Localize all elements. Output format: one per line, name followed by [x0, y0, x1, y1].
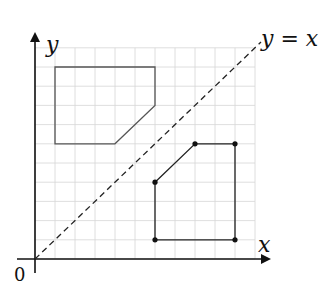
vertex-dot — [232, 237, 237, 242]
coordinate-diagram: y x 0 y = x — [0, 0, 323, 288]
vertex-dot — [232, 141, 237, 146]
x-axis-label: x — [258, 232, 271, 257]
mirror-line-y-equals-x — [35, 42, 261, 259]
y-axis-arrow-icon — [30, 32, 40, 42]
vertex-dot — [152, 237, 157, 242]
shapes — [55, 67, 238, 242]
vertex-dot — [192, 141, 197, 146]
origin-label: 0 — [14, 264, 25, 285]
y-axis-label: y — [45, 32, 59, 57]
mirror-line-label: y = x — [260, 26, 319, 51]
vertex-dot — [152, 180, 157, 185]
